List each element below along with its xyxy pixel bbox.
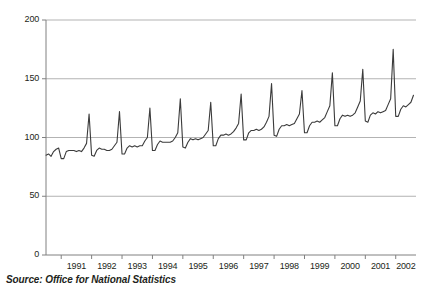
x-tick-label: 2002 [386,262,426,271]
y-tick-label: 150 [2,74,39,83]
y-tick-label: 200 [2,15,39,24]
source-note: Source: Office for National Statistics [6,274,176,285]
retail-sales-chart-figure: 050100150200 199119921993199419951996199… [0,0,426,293]
plot-area: 050100150200 199119921993199419951996199… [0,0,426,268]
x-axis-ticks-group [61,255,396,259]
y-tick-label: 0 [2,250,39,259]
gridlines-group [42,20,416,255]
data-series-line [46,49,413,158]
line-chart-svg [0,0,426,268]
y-tick-label: 100 [2,133,39,142]
y-tick-label: 50 [2,191,39,200]
